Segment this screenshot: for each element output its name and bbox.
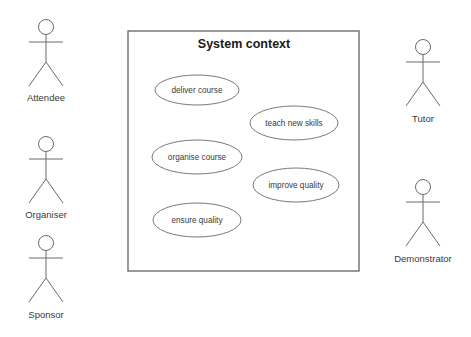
actor-tutor-leg-right [423, 82, 440, 106]
actor-sponsor-label: Sponsor [28, 309, 63, 320]
actor-organiser-label: Organiser [25, 209, 67, 220]
use-case-organise-course-label: organise course [168, 153, 227, 162]
actor-attendee-leg-right [46, 62, 63, 86]
use-case-teach-new-skills-label: teach new skills [265, 119, 322, 128]
actor-tutor[interactable]: Tutor [406, 40, 440, 125]
use-case-improve-quality-label: improve quality [268, 181, 324, 190]
use-case-ensure-quality[interactable]: ensure quality [153, 203, 241, 237]
actor-organiser-leg-right [46, 179, 63, 203]
actor-organiser-head [39, 137, 54, 152]
use-case-teach-new-skills[interactable]: teach new skills [250, 106, 338, 140]
use-case-deliver-course-label: deliver course [172, 86, 223, 95]
actor-organiser[interactable]: Organiser [25, 137, 67, 221]
use-case-ensure-quality-label: ensure quality [172, 216, 224, 225]
actor-attendee-label: Attendee [27, 92, 65, 103]
system-boundary-title: System context [198, 37, 291, 51]
actor-attendee-head [39, 20, 54, 35]
use-case-diagram-svg: System context deliver course teach new … [0, 0, 471, 337]
actor-demonstrator[interactable]: Demonstrator [394, 180, 452, 265]
actor-sponsor-leg-right [46, 278, 63, 302]
actor-organiser-leg-left [29, 179, 46, 203]
actor-demonstrator-leg-right [423, 222, 440, 246]
actor-attendee[interactable]: Attendee [27, 20, 65, 104]
actor-tutor-head [416, 40, 431, 55]
actor-tutor-label: Tutor [412, 113, 434, 124]
right-actors-group: Tutor Demonstrator [394, 40, 452, 265]
actor-demonstrator-head [416, 180, 431, 195]
actor-sponsor-leg-left [29, 278, 46, 302]
use-case-improve-quality[interactable]: improve quality [253, 168, 339, 202]
actor-demonstrator-label: Demonstrator [394, 253, 452, 264]
actor-attendee-leg-left [29, 62, 46, 86]
actor-sponsor-head [39, 236, 54, 251]
use-case-organise-course[interactable]: organise course [152, 140, 242, 174]
left-actors-group: Attendee Organiser Sponsor [25, 20, 67, 321]
diagram-canvas: System context deliver course teach new … [0, 0, 471, 337]
actor-demonstrator-leg-left [406, 222, 423, 246]
actor-sponsor[interactable]: Sponsor [28, 236, 63, 321]
use-case-deliver-course[interactable]: deliver course [155, 75, 239, 105]
actor-tutor-leg-left [406, 82, 423, 106]
